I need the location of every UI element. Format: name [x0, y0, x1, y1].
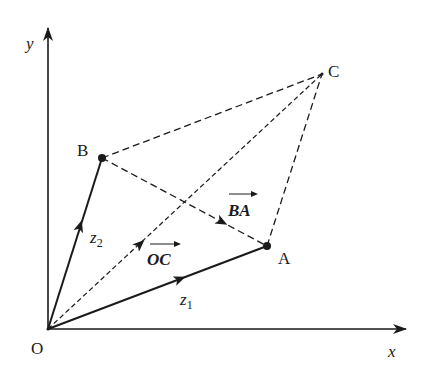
z2-label: z2 [89, 228, 103, 250]
point-A-label: A [278, 249, 291, 268]
edge-BC [102, 74, 322, 158]
vector-diagram: y x O B C A z2 z1 OC BA [0, 0, 432, 375]
point-C-label: C [328, 62, 339, 81]
point-C-dot [321, 73, 324, 76]
BA-label: BA [227, 201, 251, 220]
OC-label-group: OC [147, 241, 181, 269]
origin-label: O [31, 339, 43, 358]
point-B-dot [98, 154, 106, 162]
point-B-label: B [77, 141, 88, 160]
BA-label-group: BA [227, 191, 258, 220]
OC-label: OC [147, 250, 171, 269]
point-A-dot [263, 242, 271, 250]
x-axis-label: x [387, 342, 396, 361]
point-O-dot [47, 328, 50, 331]
z1-label: z1 [179, 290, 193, 312]
y-axis-label: y [24, 34, 34, 53]
